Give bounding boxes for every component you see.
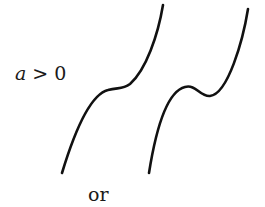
curve-monotonic-cubic	[62, 5, 163, 173]
curves-canvas	[0, 0, 265, 207]
or-connector-label: or	[88, 183, 109, 205]
curve-turning-points	[149, 9, 248, 173]
